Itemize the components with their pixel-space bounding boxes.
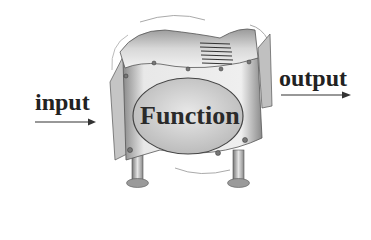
- function-label: Function: [140, 103, 240, 129]
